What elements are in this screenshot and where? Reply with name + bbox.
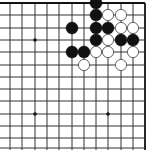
black-stone[interactable]: [90, 0, 102, 9]
black-stone[interactable]: [66, 22, 78, 34]
black-stone[interactable]: [115, 34, 127, 46]
black-stone[interactable]: [90, 22, 102, 34]
black-stone[interactable]: [78, 46, 90, 58]
black-stone[interactable]: [66, 46, 78, 58]
white-stone[interactable]: [102, 9, 113, 20]
black-stone[interactable]: [102, 22, 114, 34]
black-stone[interactable]: [90, 9, 102, 21]
white-stone[interactable]: [78, 59, 89, 70]
star-point-icon: [106, 112, 110, 116]
white-stone[interactable]: [90, 46, 101, 57]
star-point-icon: [33, 112, 37, 116]
white-stone[interactable]: [127, 46, 138, 57]
black-stone[interactable]: [127, 34, 139, 46]
go-board[interactable]: [0, 0, 147, 150]
white-stone[interactable]: [115, 22, 126, 33]
white-stone[interactable]: [115, 59, 126, 70]
go-board-diagram[interactable]: [0, 0, 147, 150]
white-stone[interactable]: [102, 34, 113, 45]
white-stone[interactable]: [127, 22, 138, 33]
star-point-icon: [33, 38, 37, 42]
white-stone[interactable]: [102, 46, 113, 57]
white-stone[interactable]: [115, 9, 126, 20]
black-stone[interactable]: [90, 34, 102, 46]
